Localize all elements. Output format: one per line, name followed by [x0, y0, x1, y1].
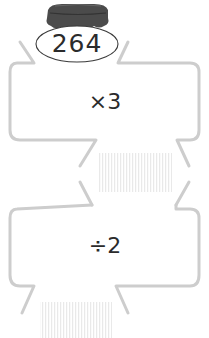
machine-1-answer-area[interactable] [99, 153, 172, 192]
machine-1-operation: ×3 [60, 88, 150, 116]
machine-2-operation: ÷2 [60, 232, 150, 260]
machine-2-answer-area[interactable] [40, 302, 112, 338]
function-machine-diagram: 264 ×3 ÷2 [0, 0, 209, 338]
jar-value: 264 [37, 28, 117, 60]
jar-lid-icon [47, 4, 109, 29]
